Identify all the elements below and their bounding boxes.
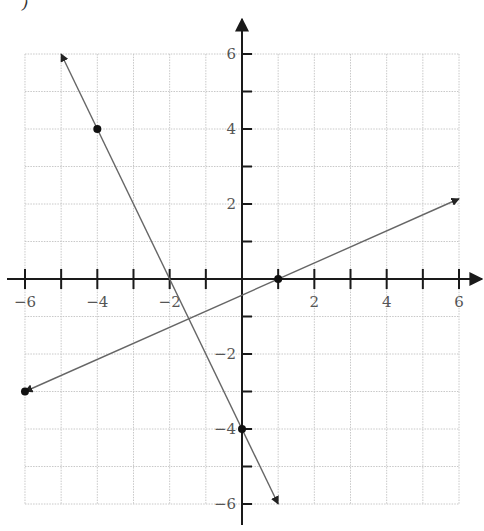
- data-point: [274, 275, 282, 283]
- x-tick-label: 6: [454, 293, 464, 311]
- y-tick-label: −2: [214, 345, 236, 363]
- x-tick-label: 2: [310, 293, 320, 311]
- y-tick-label: 6: [226, 45, 236, 63]
- y-tick-label: −6: [214, 495, 236, 513]
- coordinate-plane: −6−4−2246642−2−4−6: [0, 0, 484, 531]
- y-tick-label: 2: [226, 195, 236, 213]
- x-tick-label: −6: [14, 293, 36, 311]
- x-tick-label: 4: [382, 293, 392, 311]
- data-point: [21, 388, 29, 396]
- axes: [7, 19, 482, 525]
- x-tick-label: −4: [86, 293, 108, 311]
- y-tick-label: 4: [226, 120, 236, 138]
- y-tick-label: −4: [214, 420, 236, 438]
- data-point: [238, 425, 246, 433]
- data-point: [93, 125, 101, 133]
